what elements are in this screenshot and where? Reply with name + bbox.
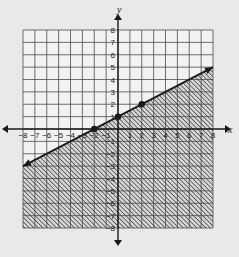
y-tick-label: −7 xyxy=(106,212,116,221)
y-axis-arrow-down-icon xyxy=(114,240,122,246)
y-tick-label: −8 xyxy=(106,224,116,233)
y-tick-label: −2 xyxy=(106,150,116,159)
y-tick-label: −5 xyxy=(106,187,116,196)
x-tick-label: 4 xyxy=(163,131,168,140)
x-tick-label: −5 xyxy=(54,131,64,140)
x-tick-label: −8 xyxy=(18,131,28,140)
x-axis-arrow-left-icon xyxy=(2,125,8,133)
x-tick-label: 6 xyxy=(187,131,192,140)
y-tick-label: 2 xyxy=(111,100,116,109)
y-tick-label: 7 xyxy=(111,38,116,47)
x-tick-label: 1 xyxy=(128,131,133,140)
y-tick-label: 3 xyxy=(111,88,116,97)
coordinate-plane-graph: −8−7−6−5−4−3−2−112345678−8−7−6−5−4−3−2−1… xyxy=(0,0,239,257)
x-tick-label: −7 xyxy=(30,131,40,140)
x-tick-label: −2 xyxy=(90,131,100,140)
x-tick-label: 8 xyxy=(211,131,216,140)
x-axis-label: x xyxy=(227,124,233,135)
x-tick-label: 3 xyxy=(151,131,156,140)
y-tick-label: 4 xyxy=(111,76,116,85)
x-tick-label: 7 xyxy=(199,131,204,140)
x-tick-label: 5 xyxy=(175,131,180,140)
y-tick-label: 5 xyxy=(111,63,116,72)
y-tick-label: −4 xyxy=(106,175,116,184)
y-tick-label: −1 xyxy=(106,137,116,146)
y-tick-label: −3 xyxy=(106,162,116,171)
x-tick-label: −6 xyxy=(42,131,52,140)
y-tick-label: −6 xyxy=(106,199,116,208)
y-axis-label: y xyxy=(116,4,122,15)
data-point xyxy=(139,101,145,107)
y-tick-label: 8 xyxy=(111,26,116,35)
data-point xyxy=(115,113,121,119)
data-point xyxy=(91,126,97,132)
y-tick-label: 6 xyxy=(111,51,116,60)
x-tick-label: 2 xyxy=(140,131,145,140)
